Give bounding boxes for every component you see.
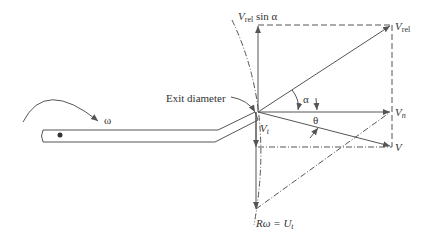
vn-label: Vn <box>395 106 406 120</box>
alpha-arc <box>292 90 298 110</box>
exit-diameter-label: Exit diameter <box>166 92 226 104</box>
diagonal-dashdot-line <box>256 113 389 209</box>
rotation-arrow <box>23 100 98 122</box>
omega-label: ω <box>104 114 111 126</box>
rotating-arm <box>42 112 259 142</box>
r-omega-label: Rω = Ut <box>255 217 294 231</box>
v-label: V <box>395 141 403 153</box>
exit-diameter-leader <box>231 97 255 112</box>
v-vector <box>258 112 390 146</box>
vt-label: Vt <box>260 122 270 136</box>
pivot-dot <box>58 133 63 138</box>
theta-arrow-bottom <box>310 128 318 138</box>
theta-label: θ <box>313 114 318 126</box>
theta-arrow-top <box>316 98 317 110</box>
velocity-diagram: ω Exit diameter Vrel sin α Vrel Vn V Vt … <box>0 0 431 240</box>
vrel-vector <box>258 26 390 112</box>
exit-diameter-arc <box>232 20 261 225</box>
alpha-label: α <box>303 93 309 105</box>
vrel-sin-alpha-label: Vrel sin α <box>238 10 278 24</box>
vrel-label: Vrel <box>395 20 411 34</box>
